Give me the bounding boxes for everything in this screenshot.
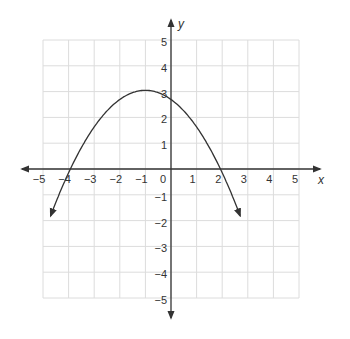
x-tick-label: 4 [266,173,272,185]
y-tick-label: −1 [154,191,167,203]
y-tick-label: 5 [161,36,167,48]
x-tick-label: −2 [110,173,123,185]
x-tick-label: −5 [33,173,46,185]
x-tick-label: 3 [241,173,247,185]
x-tick-label: 2 [215,173,221,185]
y-tick-label: 4 [161,62,167,74]
y-axis-label: y [177,17,185,31]
y-tick-label: −5 [154,294,167,306]
y-tick-label: −4 [154,268,167,280]
x-tick-label: 1 [190,173,196,185]
x-tick-label: −3 [84,173,97,185]
coordinate-plane: x y −5−4−3−2−1012345 54321−1−2−3−4−5 [0,0,350,339]
y-tick-label: 1 [161,139,167,151]
x-tick-label: 0 [160,173,166,185]
y-tick-label: −3 [154,242,167,254]
y-tick-label: −2 [154,217,167,229]
y-tick-labels: 54321−1−2−3−4−5 [154,36,167,306]
y-tick-label: 2 [161,113,167,125]
x-tick-label: 5 [292,173,298,185]
x-tick-labels: −5−4−3−2−1012345 [33,173,298,185]
x-tick-label: −1 [135,173,148,185]
x-axis-label: x [317,173,325,187]
